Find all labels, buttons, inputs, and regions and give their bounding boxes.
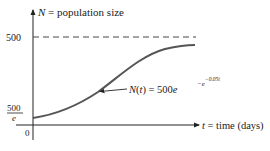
equation-exponent: −e [197, 80, 205, 88]
origin-label: 0 [25, 128, 30, 138]
x-axis-label: t = time (days) [202, 120, 264, 132]
y-tick-500-over-e-den: e [12, 113, 16, 123]
gompertz-curve [33, 45, 195, 118]
y-axis-label: N = population size [37, 6, 124, 18]
y-tick-500-over-e-num: 500 [7, 103, 21, 113]
annotation-arrow [100, 89, 127, 92]
y-tick-500: 500 [6, 32, 21, 43]
equation-exponent-2: −0.05t [205, 76, 220, 82]
gompertz-diagram: N = population size 500 500 e 0 N(t) = 5… [0, 0, 270, 151]
equation-label: N(t) = 500e [128, 84, 178, 96]
